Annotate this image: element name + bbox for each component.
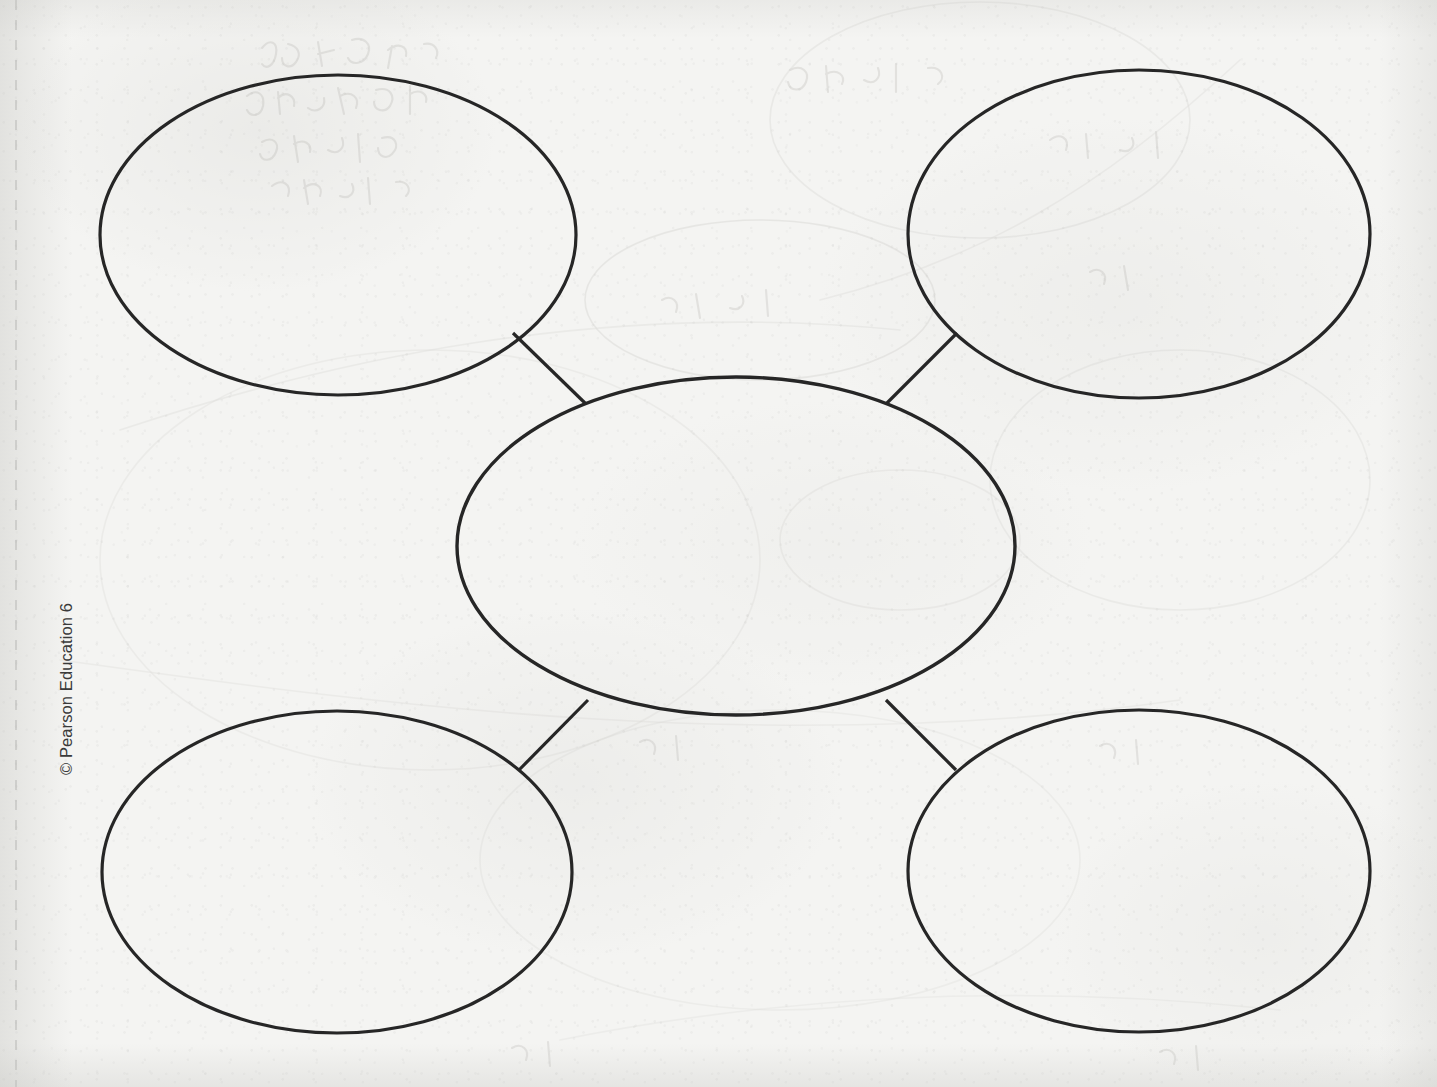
worksheet-page: © Pearson Education 6 <box>0 0 1437 1087</box>
copyright-notice: © Pearson Education 6 <box>56 585 76 775</box>
scan-vignette <box>0 0 1437 1087</box>
